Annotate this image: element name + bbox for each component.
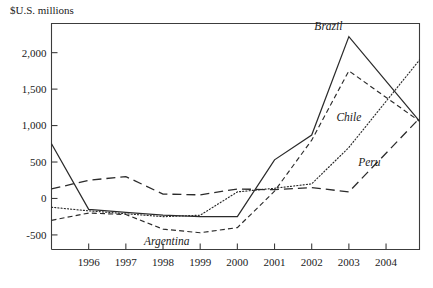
x-tick-label: 2003 (338, 256, 361, 268)
y-tick-label: 0 (41, 192, 47, 204)
series-lines (52, 37, 420, 233)
x-tick-label: 2004 (375, 256, 398, 268)
x-axis-ticks: 199619971998199920002001200220032004 (78, 244, 398, 268)
plot-frame (52, 24, 420, 250)
chart-container: $U.S. millions -50005001,0001,5002,000 1… (0, 0, 433, 288)
y-tick-label: 1,500 (22, 83, 47, 95)
y-tick-label: -500 (26, 229, 47, 241)
x-tick-label: 1998 (152, 256, 175, 268)
x-tick-label: 2001 (264, 256, 286, 268)
x-tick-label: 1999 (189, 256, 212, 268)
series-line-argentina (52, 71, 420, 233)
x-tick-label: 1996 (78, 256, 101, 268)
series-label-argentina: Argentina (143, 235, 190, 248)
axis-frame-path (52, 24, 420, 250)
series-label-peru: Peru (357, 156, 381, 168)
y-axis-title-group: $U.S. millions (10, 4, 74, 16)
x-tick-label: 2002 (301, 256, 323, 268)
series-label-chile: Chile (336, 111, 361, 123)
x-tick-label: 1997 (115, 256, 138, 268)
y-tick-label: 500 (30, 156, 47, 168)
series-label-brazil: Brazil (314, 20, 342, 32)
series-annotations: BrazilArgentinaPeruChile (143, 20, 381, 248)
y-tick-label: 1,000 (22, 119, 47, 131)
x-tick-label: 2000 (226, 256, 249, 268)
y-tick-label: 2,000 (22, 47, 47, 59)
line-chart: $U.S. millions -50005001,0001,5002,000 1… (0, 0, 433, 288)
y-axis-title: $U.S. millions (10, 4, 74, 16)
series-line-chile (52, 60, 420, 217)
